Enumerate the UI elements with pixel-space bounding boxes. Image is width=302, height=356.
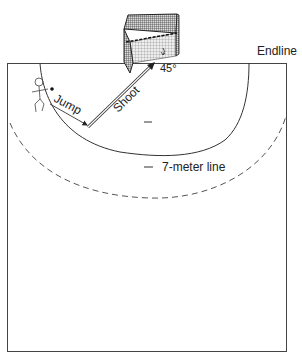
handball-court-diagram: Endline 45° Jump Shoot 7-meter line <box>0 0 302 356</box>
jump-label: Jump <box>52 91 85 117</box>
angle-label: 45° <box>160 62 177 74</box>
diagram-canvas: Endline 45° Jump Shoot 7-meter line <box>0 0 302 356</box>
court-boundary <box>8 64 287 352</box>
seven-meter-label: 7-meter line <box>162 160 226 174</box>
player-figure <box>32 78 48 112</box>
endline-label: Endline <box>257 44 297 58</box>
free-throw-line <box>10 116 286 198</box>
ball <box>50 87 54 91</box>
